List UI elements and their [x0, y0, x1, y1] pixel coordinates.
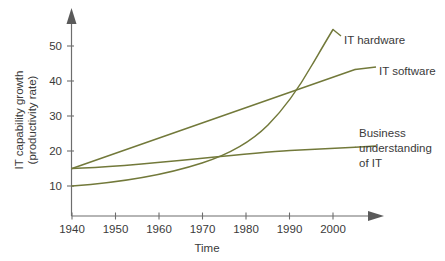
- y-tick-label-50: 50: [49, 40, 62, 52]
- series-line-it-software: [72, 70, 355, 169]
- y-axis-title-line2: (productivity rate): [26, 75, 38, 164]
- y-tick-group: 10 20 30 40 50: [49, 40, 74, 192]
- line-chart: 10 20 30 40 50 1940 1950 1960 1970 1980 …: [0, 0, 445, 261]
- y-axis: [67, 8, 77, 216]
- chart-container: 10 20 30 40 50 1940 1950 1960 1970 1980 …: [0, 0, 445, 261]
- x-tick-label-1990: 1990: [277, 223, 303, 235]
- leader-line-it-hardware: [333, 30, 341, 37]
- y-tick-label-30: 30: [49, 110, 62, 122]
- x-axis-title: Time: [194, 242, 219, 254]
- x-tick-label-1960: 1960: [146, 223, 172, 235]
- series-label-it-hardware: IT hardware: [344, 34, 405, 46]
- y-tick-label-20: 20: [49, 145, 62, 157]
- series-label-it-software: IT software: [379, 65, 436, 77]
- y-axis-title-line1: IT capability growth: [13, 71, 25, 170]
- x-tick-label-1950: 1950: [103, 223, 129, 235]
- series-label-business-understanding-line3: of IT: [359, 157, 382, 169]
- series-label-business-understanding-line1: Business: [359, 127, 406, 139]
- leader-line-it-software: [355, 67, 376, 70]
- x-tick-label-1970: 1970: [190, 223, 216, 235]
- x-axis: [72, 211, 385, 221]
- x-tick-label-2000: 2000: [320, 223, 346, 235]
- x-tick-label-1980: 1980: [233, 223, 259, 235]
- y-tick-label-10: 10: [49, 180, 62, 192]
- x-axis-arrow-icon: [368, 211, 384, 221]
- series-line-it-hardware: [72, 30, 333, 187]
- y-axis-arrow-icon: [67, 8, 77, 24]
- series-label-business-understanding-line2: understanding: [359, 142, 432, 154]
- y-tick-label-40: 40: [49, 75, 62, 87]
- x-tick-label-1940: 1940: [59, 223, 85, 235]
- series-line-business-understanding: [72, 147, 355, 168]
